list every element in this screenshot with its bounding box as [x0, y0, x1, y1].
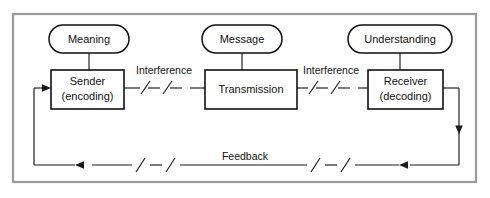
interference-right-label: Interference [303, 64, 359, 76]
node-receiver[interactable]: Receiver (decoding) [368, 70, 443, 109]
meaning-label: Meaning [68, 33, 110, 45]
understanding-label: Understanding [364, 33, 436, 45]
feedback-arrowhead-far-left [75, 161, 84, 169]
sender-label-line2: (encoding) [62, 90, 114, 102]
feedback-arrowhead-down [455, 126, 463, 135]
feedback-arrowhead-mid-left [399, 161, 408, 169]
receiver-label-line2: (decoding) [380, 90, 432, 102]
break-slash-feedback-right-2 [341, 158, 350, 172]
receiver-label-line1: Receiver [384, 75, 428, 87]
communication-process-diagram: Meaning Message Understanding Sender (en… [0, 0, 490, 198]
node-transmission[interactable]: Transmission [205, 70, 297, 109]
feedback-label: Feedback [222, 150, 269, 162]
break-slash-feedback-right-1 [311, 158, 320, 172]
interference-left-label: Interference [136, 64, 192, 76]
node-sender[interactable]: Sender (encoding) [51, 70, 124, 109]
diagram-canvas: Meaning Message Understanding Sender (en… [0, 0, 490, 198]
feedback-arrowhead-into-sender [42, 84, 51, 92]
node-understanding[interactable]: Understanding [348, 25, 452, 53]
message-label: Message [220, 33, 265, 45]
transmission-label-line1: Transmission [219, 83, 284, 95]
break-slash-feedback-left-1 [136, 158, 145, 172]
break-slash-feedback-left-2 [166, 158, 175, 172]
node-meaning[interactable]: Meaning [49, 25, 129, 53]
node-message[interactable]: Message [202, 25, 282, 53]
sender-label-line1: Sender [70, 75, 106, 87]
